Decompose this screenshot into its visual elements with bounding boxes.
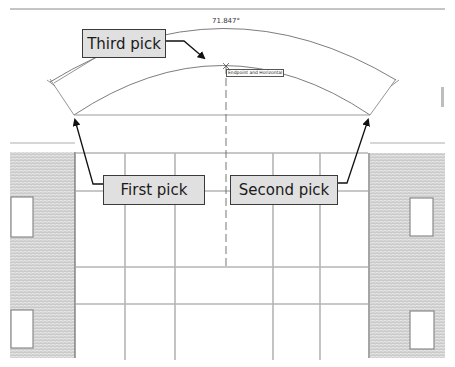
third-pick-leader-left bbox=[54, 58, 95, 83]
extension-line-right bbox=[370, 79, 396, 115]
callout-third-pick: Third pick bbox=[82, 29, 166, 58]
third-pick-leader bbox=[166, 41, 204, 58]
dimension-value: 71.847° bbox=[212, 17, 240, 25]
callout-second-pick: Second pick bbox=[230, 175, 338, 205]
window-left-lower bbox=[11, 310, 33, 348]
window-right-lower bbox=[410, 311, 434, 349]
window-left-upper bbox=[11, 197, 33, 237]
first-pick-leader bbox=[75, 120, 103, 184]
second-pick-leader bbox=[338, 120, 368, 183]
snap-tooltip: Endpoint and Horizontal bbox=[226, 69, 284, 77]
callout-first-pick: First pick bbox=[103, 175, 205, 205]
extension-line-left bbox=[50, 79, 74, 115]
arc-inner bbox=[74, 66, 370, 116]
scroll-marker bbox=[441, 87, 444, 107]
window-right-upper bbox=[410, 198, 433, 236]
cad-drawing-canvas[interactable] bbox=[0, 0, 455, 367]
